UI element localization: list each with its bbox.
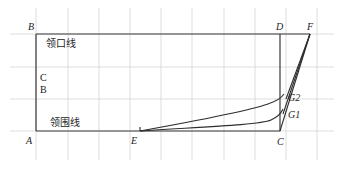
center-back-label-c: C xyxy=(40,72,47,83)
point-label-D: D xyxy=(275,21,284,32)
neckline-bottom-label: 领围线 xyxy=(50,116,80,128)
center-back-label-b: B xyxy=(40,84,47,95)
point-label-E: E xyxy=(130,135,137,146)
curve-E-G1 xyxy=(140,109,283,131)
point-label-C: C xyxy=(277,136,284,147)
collar-draft-diagram: B A D F E C G2 G1 领口线 领围线 C B xyxy=(0,0,344,173)
curve-E-G2 xyxy=(140,94,284,131)
background-grid xyxy=(10,8,334,160)
point-label-F: F xyxy=(306,21,314,32)
collar-curves xyxy=(140,94,284,131)
point-label-B: B xyxy=(28,21,34,32)
neckline-top-label: 领口线 xyxy=(46,37,76,49)
line-F-G2 xyxy=(286,34,310,99)
point-label-G1: G1 xyxy=(288,109,300,120)
point-label-G2: G2 xyxy=(288,92,300,103)
point-label-A: A xyxy=(25,135,33,146)
